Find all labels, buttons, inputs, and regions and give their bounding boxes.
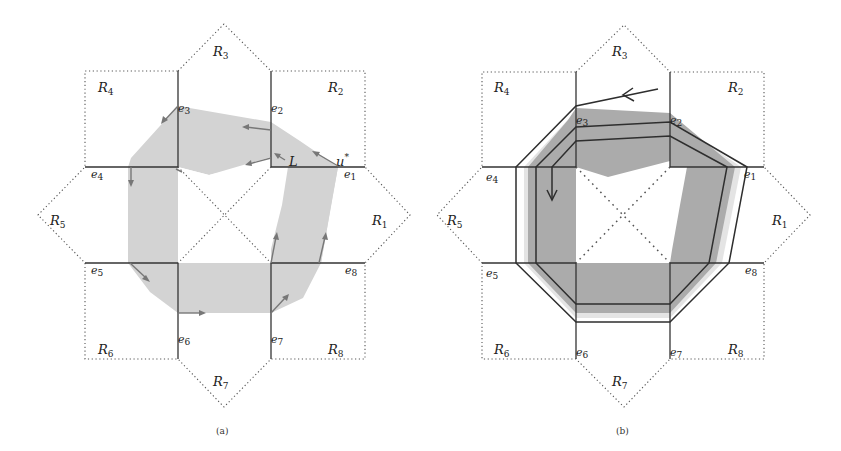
region-label-R4: R4 <box>97 80 114 97</box>
region-label-R6-b: R6 <box>493 342 510 359</box>
region-label-R6: R6 <box>97 342 114 359</box>
region-label-R2-b: R2 <box>727 80 744 97</box>
region-label-R1-b: R1 <box>771 213 788 230</box>
edge-label-e4-b: e4 <box>486 171 499 185</box>
caption-b: (b) <box>616 426 629 436</box>
edge-label-e1: e1 <box>344 168 356 182</box>
interior-gap-b <box>576 161 687 263</box>
panel-b: R1 R2 R3 R4 R5 R6 R7 R8 e1 e2 e3 e4 e5 e… <box>437 25 810 436</box>
region-label-R2: R2 <box>327 80 344 97</box>
region-label-R7: R7 <box>212 374 229 391</box>
edge-label-e8: e8 <box>345 264 358 278</box>
edge-label-e6-b: e6 <box>576 346 589 360</box>
caption-a: (a) <box>216 426 228 436</box>
figure-canvas: R1 R2 R3 R4 R5 R6 R7 R8 e1 e2 e3 e4 e5 e… <box>0 0 841 451</box>
region-label-R1: R1 <box>371 213 388 230</box>
edge-label-e5: e5 <box>91 264 104 278</box>
edge-label-e7: e7 <box>271 333 284 347</box>
edge-label-e2-b: e2 <box>670 114 682 128</box>
region-label-R5-b: R5 <box>446 213 463 230</box>
region-label-R4-b: R4 <box>493 80 510 97</box>
region-label-R7-b: R7 <box>611 374 628 391</box>
region-label-R8: R8 <box>327 342 344 359</box>
region-label-R8-b: R8 <box>727 342 744 359</box>
edge-label-e3: e3 <box>178 102 191 116</box>
edge-label-e5-b: e5 <box>486 267 499 281</box>
region-label-R3-b: R3 <box>611 44 628 61</box>
edge-label-e6: e6 <box>178 333 191 347</box>
edge-label-e2: e2 <box>271 102 283 116</box>
edge-label-e7-b: e7 <box>670 346 683 360</box>
region-label-R3: R3 <box>212 44 229 61</box>
edge-label-e4: e4 <box>91 168 104 182</box>
panel-a: R1 R2 R3 R4 R5 R6 R7 R8 e1 e2 e3 e4 e5 e… <box>38 24 410 436</box>
region-label-R5: R5 <box>49 213 66 230</box>
edge-label-e1-b: e1 <box>744 168 756 182</box>
annotation-L: L <box>288 154 298 169</box>
edge-label-e8-b: e8 <box>745 264 758 278</box>
